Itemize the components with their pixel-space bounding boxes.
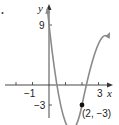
vertex-point bbox=[80, 103, 85, 108]
x-tick-label-neg1: −1 bbox=[24, 88, 36, 99]
x-axis bbox=[5, 82, 113, 88]
vertex-label: (2, −3) bbox=[82, 108, 111, 119]
parabola-graph: y 9 −1 3 x −3 (2, −3) bbox=[0, 0, 119, 125]
y-tick-label-neg3: −3 bbox=[34, 100, 46, 111]
bullet-dot bbox=[2, 12, 4, 14]
x-tick-label-3: 3 bbox=[97, 88, 103, 99]
x-axis-label: x bbox=[106, 87, 112, 99]
y-tick-label-9: 9 bbox=[39, 20, 45, 31]
y-axis-label: y bbox=[37, 2, 43, 14]
